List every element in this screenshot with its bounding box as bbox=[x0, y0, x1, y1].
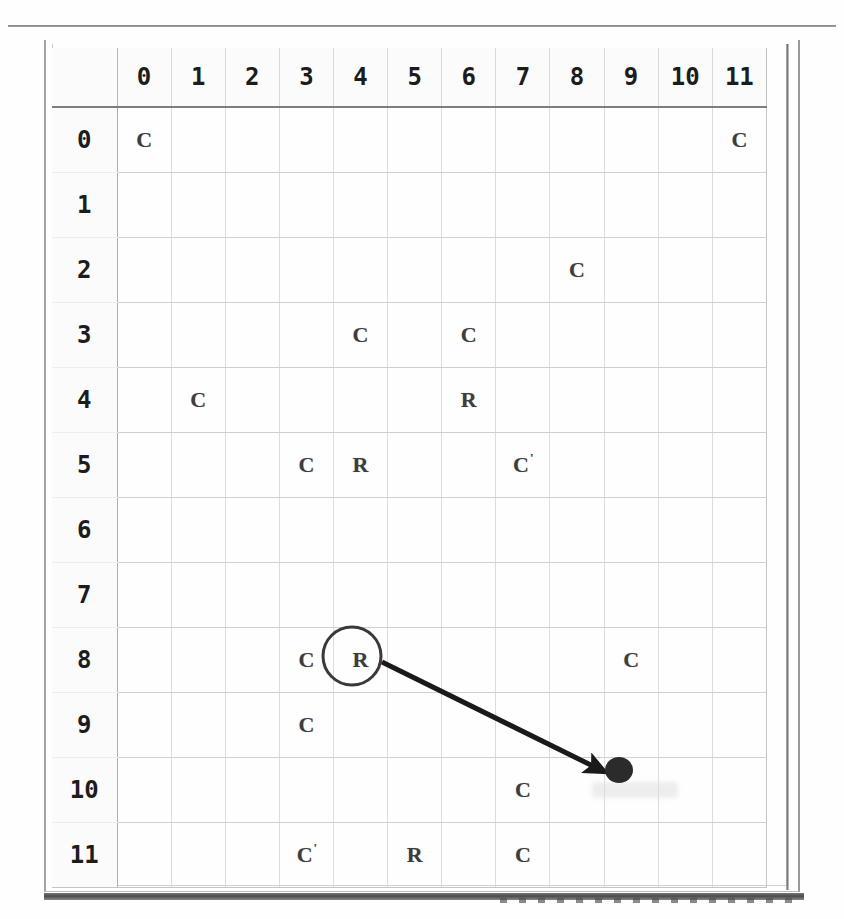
grid-cell-8-7[interactable] bbox=[496, 628, 550, 693]
grid-cell-2-9[interactable] bbox=[604, 238, 658, 303]
grid-cell-10-4[interactable] bbox=[333, 758, 387, 823]
grid-cell-6-5[interactable] bbox=[388, 498, 442, 563]
grid-cell-7-3[interactable] bbox=[279, 563, 333, 628]
grid-cell-2-4[interactable] bbox=[333, 238, 387, 303]
grid-cell-5-6[interactable] bbox=[442, 433, 496, 498]
grid-cell-9-6[interactable] bbox=[442, 693, 496, 758]
grid-cell-2-2[interactable] bbox=[225, 238, 279, 303]
grid-cell-4-9[interactable] bbox=[604, 368, 658, 433]
grid-cell-5-5[interactable] bbox=[388, 433, 442, 498]
grid-cell-9-8[interactable] bbox=[550, 693, 604, 758]
grid-cell-4-8[interactable] bbox=[550, 368, 604, 433]
grid-cell-9-1[interactable] bbox=[171, 693, 225, 758]
grid-cell-1-9[interactable] bbox=[604, 173, 658, 238]
grid-cell-4-7[interactable] bbox=[496, 368, 550, 433]
grid-cell-4-5[interactable] bbox=[388, 368, 442, 433]
grid-cell-0-7[interactable] bbox=[496, 107, 550, 173]
grid-cell-4-3[interactable] bbox=[279, 368, 333, 433]
grid-cell-10-7[interactable]: C bbox=[496, 758, 550, 823]
grid-cell-0-0[interactable]: C bbox=[117, 107, 171, 173]
grid-cell-11-3[interactable]: C' bbox=[279, 823, 333, 888]
grid-cell-6-4[interactable] bbox=[333, 498, 387, 563]
grid-cell-3-4[interactable]: C bbox=[333, 303, 387, 368]
grid-cell-7-4[interactable] bbox=[333, 563, 387, 628]
grid-cell-7-1[interactable] bbox=[171, 563, 225, 628]
grid-cell-3-5[interactable] bbox=[388, 303, 442, 368]
grid-cell-7-9[interactable] bbox=[604, 563, 658, 628]
grid-cell-0-1[interactable] bbox=[171, 107, 225, 173]
grid-cell-8-1[interactable] bbox=[171, 628, 225, 693]
grid-cell-6-8[interactable] bbox=[550, 498, 604, 563]
grid-cell-3-1[interactable] bbox=[171, 303, 225, 368]
grid-cell-2-6[interactable] bbox=[442, 238, 496, 303]
grid-cell-6-7[interactable] bbox=[496, 498, 550, 563]
grid-cell-2-11[interactable] bbox=[712, 238, 766, 303]
grid-cell-0-2[interactable] bbox=[225, 107, 279, 173]
grid-cell-6-6[interactable] bbox=[442, 498, 496, 563]
grid-cell-0-11[interactable]: C bbox=[712, 107, 766, 173]
grid-cell-8-11[interactable] bbox=[712, 628, 766, 693]
grid-cell-1-1[interactable] bbox=[171, 173, 225, 238]
grid-cell-11-5[interactable]: R bbox=[388, 823, 442, 888]
grid-cell-10-10[interactable] bbox=[658, 758, 712, 823]
grid-cell-9-2[interactable] bbox=[225, 693, 279, 758]
grid-cell-8-8[interactable] bbox=[550, 628, 604, 693]
grid-cell-5-10[interactable] bbox=[658, 433, 712, 498]
grid-cell-3-7[interactable] bbox=[496, 303, 550, 368]
grid-cell-7-6[interactable] bbox=[442, 563, 496, 628]
grid-cell-11-6[interactable] bbox=[442, 823, 496, 888]
grid-cell-0-10[interactable] bbox=[658, 107, 712, 173]
grid-cell-4-2[interactable] bbox=[225, 368, 279, 433]
grid-cell-5-2[interactable] bbox=[225, 433, 279, 498]
grid-cell-2-3[interactable] bbox=[279, 238, 333, 303]
grid-cell-8-4[interactable]: R bbox=[333, 628, 387, 693]
grid-cell-2-7[interactable] bbox=[496, 238, 550, 303]
grid-cell-2-1[interactable] bbox=[171, 238, 225, 303]
grid-cell-3-10[interactable] bbox=[658, 303, 712, 368]
grid-cell-0-4[interactable] bbox=[333, 107, 387, 173]
grid-cell-11-2[interactable] bbox=[225, 823, 279, 888]
grid-cell-9-7[interactable] bbox=[496, 693, 550, 758]
grid-cell-6-11[interactable] bbox=[712, 498, 766, 563]
grid-cell-1-8[interactable] bbox=[550, 173, 604, 238]
grid-cell-1-11[interactable] bbox=[712, 173, 766, 238]
grid-cell-4-4[interactable] bbox=[333, 368, 387, 433]
grid-cell-9-3[interactable]: C bbox=[279, 693, 333, 758]
grid-cell-8-5[interactable] bbox=[388, 628, 442, 693]
grid-cell-3-0[interactable] bbox=[117, 303, 171, 368]
grid-cell-5-9[interactable] bbox=[604, 433, 658, 498]
grid-cell-10-1[interactable] bbox=[171, 758, 225, 823]
grid-cell-7-0[interactable] bbox=[117, 563, 171, 628]
grid-cell-4-11[interactable] bbox=[712, 368, 766, 433]
grid-cell-0-8[interactable] bbox=[550, 107, 604, 173]
grid-cell-8-9[interactable]: C bbox=[604, 628, 658, 693]
grid-cell-11-10[interactable] bbox=[658, 823, 712, 888]
grid-cell-10-9[interactable] bbox=[604, 758, 658, 823]
grid-cell-10-3[interactable] bbox=[279, 758, 333, 823]
grid-cell-9-9[interactable] bbox=[604, 693, 658, 758]
grid-cell-11-4[interactable] bbox=[333, 823, 387, 888]
grid-cell-8-10[interactable] bbox=[658, 628, 712, 693]
grid-cell-10-5[interactable] bbox=[388, 758, 442, 823]
grid-cell-6-1[interactable] bbox=[171, 498, 225, 563]
grid-cell-6-2[interactable] bbox=[225, 498, 279, 563]
grid-cell-0-6[interactable] bbox=[442, 107, 496, 173]
grid-cell-1-3[interactable] bbox=[279, 173, 333, 238]
grid-cell-10-6[interactable] bbox=[442, 758, 496, 823]
grid-cell-6-10[interactable] bbox=[658, 498, 712, 563]
grid-cell-9-0[interactable] bbox=[117, 693, 171, 758]
grid-cell-0-5[interactable] bbox=[388, 107, 442, 173]
grid-cell-7-10[interactable] bbox=[658, 563, 712, 628]
grid-cell-3-2[interactable] bbox=[225, 303, 279, 368]
grid-cell-3-8[interactable] bbox=[550, 303, 604, 368]
grid-cell-9-4[interactable] bbox=[333, 693, 387, 758]
grid-cell-1-7[interactable] bbox=[496, 173, 550, 238]
grid-cell-10-0[interactable] bbox=[117, 758, 171, 823]
grid-cell-0-3[interactable] bbox=[279, 107, 333, 173]
grid-cell-4-1[interactable]: C bbox=[171, 368, 225, 433]
grid-cell-11-0[interactable] bbox=[117, 823, 171, 888]
grid-cell-1-5[interactable] bbox=[388, 173, 442, 238]
grid-cell-6-3[interactable] bbox=[279, 498, 333, 563]
grid-cell-4-10[interactable] bbox=[658, 368, 712, 433]
grid-cell-7-8[interactable] bbox=[550, 563, 604, 628]
